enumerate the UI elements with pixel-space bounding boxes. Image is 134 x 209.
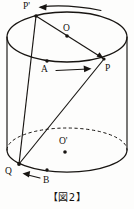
bottom-circle-front-arc (7, 150, 127, 172)
point-dot-p (102, 57, 105, 60)
point-label-a: A (41, 65, 48, 75)
point-dot-o (65, 34, 69, 38)
point-label-p-prime: P' (23, 2, 30, 12)
top-rotation-arrow (41, 6, 101, 11)
figure-caption: 【図2】 (0, 189, 134, 204)
point-label-q: Q (5, 167, 12, 177)
point-dot-q (17, 162, 21, 166)
middle-arrow-head-icon (84, 66, 92, 73)
segment-pprime-q (19, 16, 36, 164)
point-label-o: O (63, 24, 70, 34)
point-label-p: P (105, 64, 110, 74)
bottom-arrow-head-icon (23, 171, 31, 177)
point-label-o-prime: O' (59, 137, 68, 147)
cylinder-figure: P' O A P O' Q B 【図2】 (0, 0, 134, 209)
point-dot-a (45, 59, 48, 62)
middle-direction-arrow (56, 69, 88, 71)
segment-pprime-p (36, 16, 104, 59)
point-label-b: B (43, 176, 49, 186)
point-dot-oprime (63, 150, 67, 154)
top-arrow-head-icon (39, 4, 47, 11)
segment-p-q (19, 59, 104, 164)
point-dot-b (45, 168, 48, 171)
point-dot-pprime (34, 14, 37, 17)
